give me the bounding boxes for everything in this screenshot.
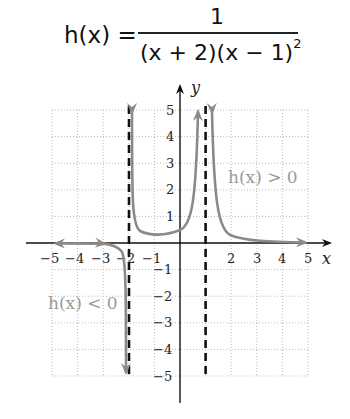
svg-text:−1: −1: [153, 262, 172, 277]
x-axis-label: x: [322, 249, 331, 268]
svg-text:1: 1: [166, 209, 174, 224]
curve-middle-branch: [132, 112, 198, 235]
negative-region-label: h(x) < 0: [48, 293, 118, 313]
x-tick-labels: −5 −4 −3 −2 −1 2 3 4 5: [40, 251, 312, 266]
svg-text:5: 5: [166, 103, 174, 118]
positive-region-label: h(x) > 0: [228, 167, 298, 187]
svg-text:−4: −4: [65, 251, 84, 266]
function-graph: x y −5 −4 −3 −2 −1 2 3 4 5 1 2 3 4 5 −1 …: [0, 0, 350, 419]
y-axis-label: y: [190, 78, 201, 97]
svg-text:−5: −5: [40, 251, 59, 266]
svg-text:−3: −3: [153, 315, 172, 330]
svg-text:5: 5: [304, 251, 312, 266]
svg-text:−5: −5: [153, 369, 172, 384]
svg-text:−4: −4: [153, 342, 172, 357]
svg-text:4: 4: [166, 129, 174, 144]
svg-text:3: 3: [253, 251, 261, 266]
svg-text:−2: −2: [116, 251, 135, 266]
svg-text:2: 2: [166, 182, 174, 197]
svg-text:2: 2: [227, 251, 235, 266]
svg-text:−2: −2: [153, 289, 172, 304]
svg-text:3: 3: [166, 156, 174, 171]
svg-text:−3: −3: [91, 251, 110, 266]
svg-text:4: 4: [278, 251, 286, 266]
